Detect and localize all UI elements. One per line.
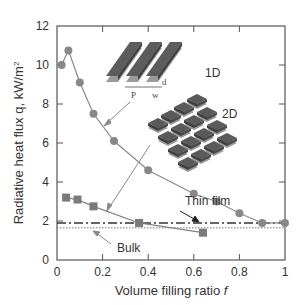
data-point-circle xyxy=(89,110,97,118)
x-tick-label: 0.6 xyxy=(185,265,202,279)
data-point-circle xyxy=(76,79,84,87)
y-tick-label: 2 xyxy=(42,214,49,228)
data-point-circle xyxy=(110,137,118,145)
y-tick-label: 12 xyxy=(36,19,50,33)
label-bulk: Bulk xyxy=(117,241,141,255)
label-d: d xyxy=(162,77,167,87)
data-point-circle xyxy=(281,219,289,227)
data-point-square xyxy=(62,194,70,202)
y-tick-label: 4 xyxy=(42,175,49,189)
data-point-square xyxy=(199,229,207,237)
data-point-circle xyxy=(64,46,72,54)
data-point-square xyxy=(89,202,97,210)
data-point-circle xyxy=(258,219,266,227)
y-tick-label: 10 xyxy=(36,58,50,72)
label-2d: 2D xyxy=(222,107,238,121)
label-P: P xyxy=(131,90,136,100)
x-tick-label: 0.2 xyxy=(94,265,111,279)
label-w: w xyxy=(152,90,159,100)
y-tick-label: 6 xyxy=(42,136,49,150)
data-point-circle xyxy=(235,209,243,217)
x-tick-label: 0.4 xyxy=(140,265,157,279)
data-point-circle xyxy=(58,61,66,69)
x-axis-title: Volume filling ratio f xyxy=(115,283,229,298)
x-tick-label: 0 xyxy=(54,265,61,279)
y-tick-label: 0 xyxy=(42,253,49,267)
data-point-circle xyxy=(144,166,152,174)
y-tick-label: 8 xyxy=(42,97,49,111)
chart: 00.20.40.60.81024681012 Volume filling r… xyxy=(0,0,302,305)
label-thin-film: Thin film xyxy=(185,194,230,208)
inset-2d-array xyxy=(148,94,237,172)
x-tick-label: 1 xyxy=(282,265,289,279)
x-tick-label: 0.8 xyxy=(231,265,248,279)
y-axis-title: Radiative heat flux q, kW/m2 xyxy=(11,61,26,224)
data-point-square xyxy=(74,196,82,204)
data-point-square xyxy=(135,219,143,227)
thin-film-arrow xyxy=(180,211,199,222)
label-1d: 1D xyxy=(205,66,221,80)
inset-1d-grating: P w d 1D xyxy=(106,42,221,100)
